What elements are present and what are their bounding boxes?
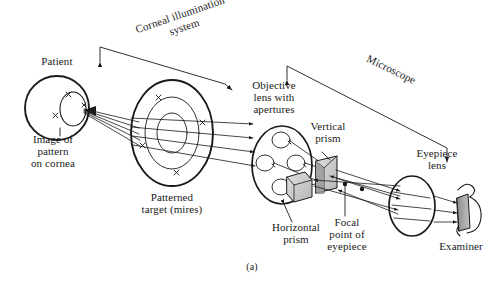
label-eyepiece-lens: Eyepiece lens — [406, 148, 468, 172]
horizontal-prism-leader — [284, 204, 292, 222]
patient-eye-globe — [25, 76, 89, 140]
label-objective-lens: Objective lens with apertures — [237, 80, 311, 116]
horizontal-prism-block — [287, 172, 312, 202]
label-image-of-pattern-on-cornea: Image of pattern on cornea — [6, 134, 100, 170]
label-examiner: Examiner — [427, 241, 495, 253]
examiner-eye — [457, 194, 470, 231]
target-to-objective-rays — [131, 118, 255, 166]
corneal-illumination-bracket — [100, 47, 232, 90]
label-patient: Patient — [20, 56, 94, 68]
eyepiece-internal-lines — [392, 192, 431, 221]
label-focal-point-of-eyepiece: Focal point of eyepiece — [320, 217, 374, 253]
figure-container: Patient Image of pattern on cornea Corne… — [0, 0, 504, 295]
label-patterned-target: Patterned target (mires) — [126, 192, 218, 216]
figure-caption: (a) — [227, 262, 277, 273]
eyepiece-lens-disc — [389, 176, 435, 236]
cornea-arc — [60, 92, 86, 126]
eyepiece-to-examiner-rays — [434, 196, 457, 222]
target-pattern-marks — [140, 95, 205, 175]
label-vertical-prism: Vertical prism — [299, 121, 357, 145]
